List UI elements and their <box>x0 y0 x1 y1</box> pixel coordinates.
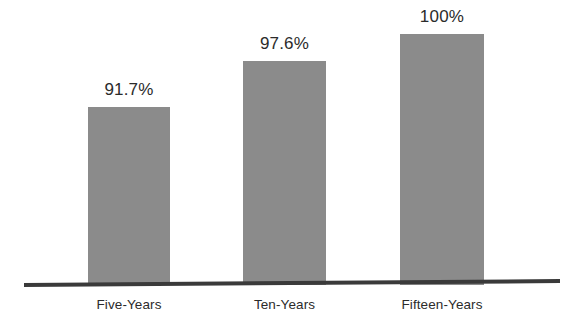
bar-value-label: 100% <box>400 7 484 27</box>
bar-ten-years <box>243 61 326 285</box>
bar-fifteen-years <box>400 34 484 285</box>
bar-chart: 91.7% 97.6% 100% Five-Years Ten-Years Fi… <box>0 0 573 328</box>
plot-area: 91.7% 97.6% 100% Five-Years Ten-Years Fi… <box>0 0 573 328</box>
category-label-five-years: Five-Years <box>79 297 179 312</box>
bar-value-label: 97.6% <box>243 34 326 54</box>
bar-five-years <box>88 107 170 285</box>
bar-value-label: 91.7% <box>88 80 170 100</box>
category-label-ten-years: Ten-Years <box>236 297 333 312</box>
category-label-fifteen-years: Fifteen-Years <box>387 297 497 312</box>
